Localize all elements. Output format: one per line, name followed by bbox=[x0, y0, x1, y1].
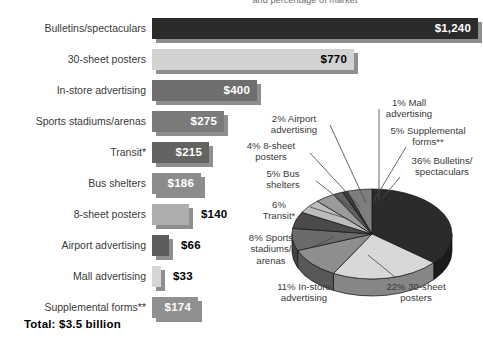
bar-category-label: Mall advertising bbox=[0, 266, 146, 287]
pie-label-bulletins-spectaculars: 36% Bulletins/ spectaculars bbox=[400, 155, 483, 178]
bar-value-label: $33 bbox=[173, 266, 193, 287]
bar-fill bbox=[152, 204, 189, 225]
pie-label-eight-sheet-posters: 4% 8-sheet posters bbox=[233, 140, 309, 163]
bar-value-label: $174 bbox=[152, 297, 198, 318]
bar-value-label: $215 bbox=[152, 142, 209, 163]
bar-graphic bbox=[152, 266, 167, 287]
bar-value-label: $140 bbox=[201, 204, 227, 225]
pie-chart: 1% Mall advertising2% Airport advertisin… bbox=[230, 95, 483, 339]
pie-label-thirty-sheet-posters: 22% 30-sheet posters bbox=[372, 281, 460, 304]
bar-category-label: Sports stadiums/arenas bbox=[0, 111, 146, 132]
pie-label-airport-advertising: 2% Airport advertising bbox=[254, 113, 334, 136]
bar-graphic bbox=[152, 204, 195, 225]
bar-value-label: $186 bbox=[152, 173, 201, 194]
pie-label-in-store-advertising: 11% In-store advertising bbox=[261, 281, 347, 304]
pie-top-faces bbox=[292, 189, 452, 279]
pie-label-mall-advertising: 1% Mall advertising bbox=[373, 97, 445, 120]
bar-category-label: Transit* bbox=[0, 142, 146, 163]
bar-category-label: Bulletins/spectaculars bbox=[0, 18, 146, 39]
chart-canvas: and percentage of market Bulletins/spect… bbox=[0, 0, 483, 339]
pie-label-supplemental-forms: 5% Supplemental forms** bbox=[378, 125, 478, 148]
bar-category-label: 30-sheet posters bbox=[0, 49, 146, 70]
pie-label-sports-stadiums-arenas: 8% Sports stadiums/ arenas bbox=[233, 232, 309, 266]
bar-value-label: $770 bbox=[152, 49, 354, 70]
total-label: Total: $3.5 billion bbox=[24, 318, 121, 330]
bar-category-label: Supplemental forms** bbox=[0, 297, 146, 318]
bar-value-label: $275 bbox=[152, 111, 224, 132]
bar-value-label: $66 bbox=[181, 235, 201, 256]
bar-category-label: In-store advertising bbox=[0, 80, 146, 101]
bar-category-label: 8-sheet posters bbox=[0, 204, 146, 225]
bar-graphic bbox=[152, 235, 175, 256]
bar-category-label: Bus shelters bbox=[0, 173, 146, 194]
bar-fill bbox=[152, 235, 169, 256]
bar-value-label: $1,240 bbox=[152, 18, 478, 39]
bar-category-label: Airport advertising bbox=[0, 235, 146, 256]
bar-fill bbox=[152, 266, 161, 287]
pie-label-transit: 6% Transit* bbox=[249, 199, 309, 222]
pie-label-bus-shelters: 5% Bus shelters bbox=[252, 168, 314, 191]
chart-title: and percentage of market bbox=[190, 0, 420, 5]
